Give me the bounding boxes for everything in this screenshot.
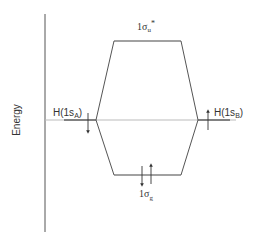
energy-axis-label: Energy (11, 104, 22, 136)
antibonding-label: 1σu* (137, 19, 155, 34)
correlation-line (96, 120, 114, 175)
mo-diagram-svg: Energy H(1sA) H(1sB) 1σu* 1σg (0, 0, 257, 241)
bonding-label: 1σg (139, 188, 153, 202)
right-atomic-label: H(1sB) (214, 107, 243, 119)
mo-diagram: Energy H(1sA) H(1sB) 1σu* 1σg (0, 0, 257, 241)
left-atomic-label: H(1sA) (53, 107, 82, 119)
correlation-line (96, 41, 114, 120)
correlation-line (181, 41, 198, 120)
correlation-line (181, 120, 198, 175)
